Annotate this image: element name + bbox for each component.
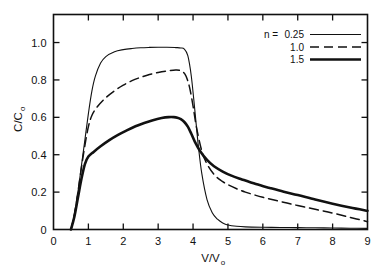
x-tick-label-6: 6	[260, 235, 266, 247]
y-tick-label-0.2: 0.2	[31, 186, 46, 198]
x-axis-title: V/V	[201, 252, 220, 264]
breakthrough-curve-chart: 012345678900.20.40.60.81.0n =0.251.01.5V…	[0, 0, 392, 269]
series-curve-1-0	[71, 70, 368, 230]
x-tick-label-4: 4	[190, 235, 196, 247]
series-curve-1-5	[71, 117, 368, 229]
x-tick-label-3: 3	[155, 235, 161, 247]
x-tick-label-7: 7	[295, 235, 301, 247]
legend-prefix: n =	[264, 29, 278, 40]
plot-frame	[54, 15, 368, 230]
y-axis-title: C/C	[12, 112, 24, 132]
x-tick-label-2: 2	[120, 235, 126, 247]
y-axis-title-subscript: o	[18, 106, 27, 111]
x-tick-label-0: 0	[50, 235, 56, 247]
x-tick-label-1: 1	[85, 235, 91, 247]
x-tick-label-5: 5	[225, 235, 231, 247]
x-tick-label-8: 8	[330, 235, 336, 247]
y-tick-label-0.4: 0.4	[31, 149, 46, 161]
legend-label-1-5: 1.5	[290, 54, 304, 65]
y-axis-title-group: C/Co	[12, 106, 27, 132]
x-tick-label-9: 9	[364, 235, 370, 247]
y-tick-label-0: 0	[40, 224, 46, 236]
legend-label-1-0: 1.0	[290, 42, 304, 53]
legend-label-0-25: 0.25	[285, 29, 305, 40]
chart-figure: 012345678900.20.40.60.81.0n =0.251.01.5V…	[0, 0, 392, 269]
y-tick-label-0.6: 0.6	[31, 111, 46, 123]
y-tick-label-0.8: 0.8	[31, 74, 46, 86]
x-axis-title-subscript: o	[221, 258, 226, 267]
y-tick-label-1: 1.0	[31, 37, 46, 49]
